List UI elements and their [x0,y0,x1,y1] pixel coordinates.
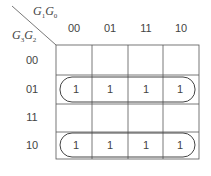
row-header-10: 10 [20,139,44,151]
column-header-00: 00 [56,22,92,34]
column-variable-label: G1G0 [33,4,57,20]
cell-10-10: 1 [162,139,198,151]
col-var-g0: G [45,4,54,18]
cell-10-01: 1 [92,139,128,151]
cell-01-00: 1 [58,83,94,95]
cell-01-10: 1 [162,83,198,95]
column-header-01: 01 [92,22,128,34]
row-header-11: 11 [20,111,44,123]
cell-10-11: 1 [128,139,164,151]
column-header-11: 11 [128,22,164,34]
row-header-01: 01 [20,83,44,95]
cell-01-11: 1 [128,83,164,95]
column-header-10: 10 [163,22,199,34]
row-var-g3: G [12,28,21,42]
row-variable-label: G3G2 [12,28,36,44]
row-header-00: 00 [20,54,44,66]
col-var-g1: G [33,4,42,18]
cell-01-01: 1 [92,83,128,95]
col-var-sub2: 0 [54,12,58,20]
row-var-g2: G [24,28,33,42]
row-var-sub2: 2 [33,36,37,44]
cell-10-00: 1 [58,139,94,151]
